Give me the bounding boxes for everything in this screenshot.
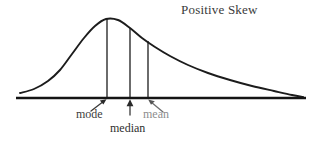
- median-arrow: [127, 99, 134, 115]
- chart-title: Positive Skew: [181, 3, 258, 16]
- positive-skew-figure: Positive Skew mode median mean: [0, 0, 319, 148]
- distribution-diagram: [0, 0, 319, 148]
- median-label: median: [110, 122, 145, 134]
- distribution-curve: [20, 18, 303, 97]
- mean-label: mean: [143, 108, 169, 120]
- mode-label: mode: [76, 108, 103, 120]
